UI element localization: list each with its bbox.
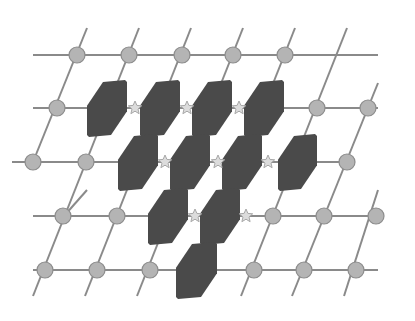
node-circle-icon xyxy=(78,154,94,170)
node-circle-icon xyxy=(348,262,364,278)
node-circle-icon xyxy=(55,208,71,224)
dark-block xyxy=(200,188,240,245)
node-circle-icon xyxy=(246,262,262,278)
dark-block xyxy=(118,134,158,191)
node-circle-icon xyxy=(339,154,355,170)
lattice-canvas xyxy=(0,0,415,321)
node-circle-icon xyxy=(25,154,41,170)
dark-block xyxy=(222,134,262,191)
node-circle-icon xyxy=(277,47,293,63)
star-icon xyxy=(239,209,252,222)
star-icon xyxy=(158,155,171,168)
star-icon xyxy=(128,101,141,114)
dark-block xyxy=(244,80,284,137)
dark-blocks xyxy=(87,80,317,299)
node-circle-icon xyxy=(368,208,384,224)
dark-block xyxy=(140,80,180,137)
node-circle-icon xyxy=(360,100,376,116)
grid-line-slanted xyxy=(344,190,378,296)
node-circle-icon xyxy=(37,262,53,278)
node-circle-icon xyxy=(121,47,137,63)
node-circle-icon xyxy=(109,208,125,224)
node-circle-icon xyxy=(296,262,312,278)
dark-block xyxy=(170,134,210,191)
dark-block xyxy=(148,188,188,245)
lattice-diagram xyxy=(0,0,415,321)
node-circle-icon xyxy=(309,100,325,116)
node-circle-icon xyxy=(316,208,332,224)
star-icon xyxy=(261,155,274,168)
node-circle-icon xyxy=(265,208,281,224)
dark-block xyxy=(278,134,317,191)
node-circle-icon xyxy=(69,47,85,63)
dark-block xyxy=(192,80,232,137)
dark-block xyxy=(176,242,217,299)
star-icon xyxy=(188,209,201,222)
node-circle-icon xyxy=(225,47,241,63)
star-icon xyxy=(232,101,245,114)
dark-block xyxy=(87,80,127,137)
node-circle-icon xyxy=(89,262,105,278)
node-circle-icon xyxy=(49,100,65,116)
node-circle-icon xyxy=(174,47,190,63)
node-circle-icon xyxy=(142,262,158,278)
star-icon xyxy=(180,101,193,114)
